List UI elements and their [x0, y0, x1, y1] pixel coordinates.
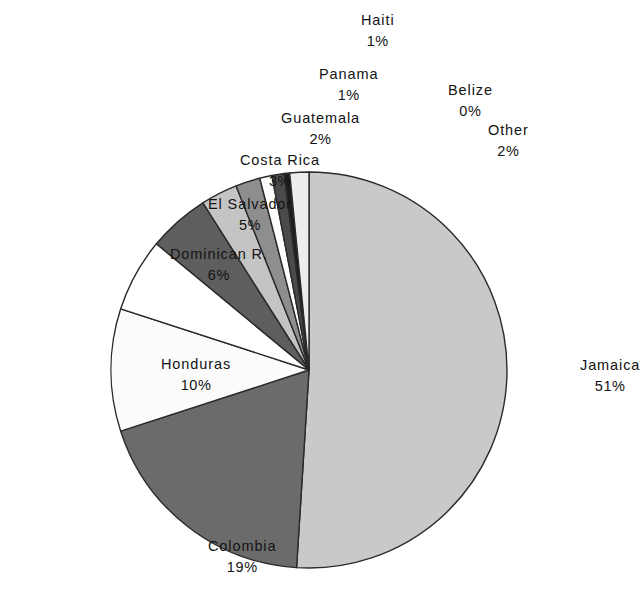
pie-label-value: 1%: [361, 31, 395, 52]
pie-label-panama: Panama1%: [319, 64, 378, 105]
pie-label-name: Panama: [319, 64, 378, 85]
pie-label-honduras: Honduras10%: [161, 354, 231, 395]
pie-label-value: 1%: [319, 85, 378, 106]
pie-label-haiti: Haiti1%: [361, 10, 395, 51]
pie-label-value: 5%: [208, 215, 292, 236]
pie-label-name: Jamaica: [580, 355, 640, 376]
pie-label-name: Colombia: [208, 536, 276, 557]
pie-label-name: Dominican R.: [170, 244, 268, 265]
pie-label-name: Costa Rica: [240, 150, 320, 171]
pie-label-name: Belize: [448, 80, 493, 101]
pie-label-value: 3%: [240, 171, 320, 192]
pie-label-costa-rica: Costa Rica3%: [240, 150, 320, 191]
pie-label-other: Other2%: [488, 120, 529, 161]
pie-label-name: Guatemala: [281, 108, 360, 129]
pie-label-dominican-r: Dominican R.6%: [170, 244, 268, 285]
pie-label-el-salvador: El Salvador5%: [208, 194, 292, 235]
pie-label-value: 51%: [580, 376, 640, 397]
pie-label-colombia: Colombia19%: [208, 536, 276, 577]
pie-label-jamaica: Jamaica51%: [580, 355, 640, 396]
pie-label-value: 2%: [488, 141, 529, 162]
pie-slice-jamaica[interactable]: [297, 172, 507, 568]
pie-label-guatemala: Guatemala2%: [281, 108, 360, 149]
pie-label-name: El Salvador: [208, 194, 292, 215]
pie-label-name: Other: [488, 120, 529, 141]
pie-label-value: 10%: [161, 375, 231, 396]
pie-label-value: 2%: [281, 129, 360, 150]
pie-label-belize: Belize0%: [448, 80, 493, 121]
pie-label-name: Honduras: [161, 354, 231, 375]
pie-label-name: Haiti: [361, 10, 395, 31]
pie-label-value: 6%: [170, 265, 268, 286]
pie-label-value: 19%: [208, 557, 276, 578]
pie-label-value: 0%: [448, 101, 493, 122]
